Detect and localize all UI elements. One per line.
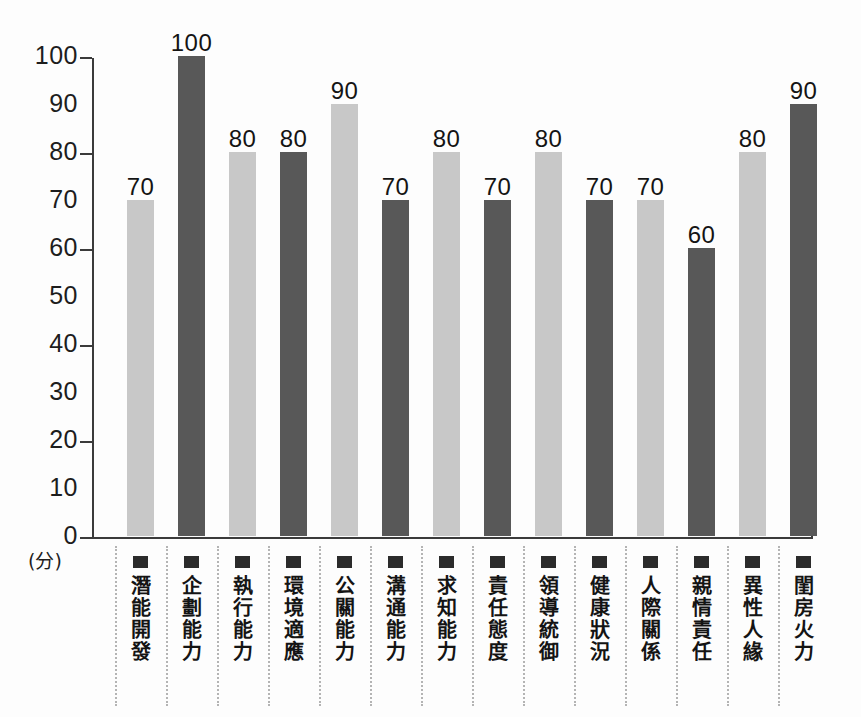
category-marker-square-icon: [745, 556, 760, 568]
bar-value-label: 80: [519, 125, 579, 153]
chart-page: 70100808090708070807070608090 0102030405…: [0, 0, 861, 717]
category-label-13: 異性人緣: [731, 540, 775, 663]
category-label-text: 人際關係: [640, 575, 662, 663]
category-label-text: 企劃能力: [181, 575, 203, 663]
y-axis-tick-mark: [80, 249, 92, 251]
y-axis-tick-mark: [80, 441, 92, 443]
category-separator: [778, 546, 780, 706]
category-axis-labels: 潛能開發企劃能力執行能力環境適應公關能力溝通能力求知能力責任態度領導統御健康狀況…: [92, 540, 813, 717]
category-separator: [676, 546, 678, 706]
category-marker-square-icon: [439, 556, 454, 568]
category-label-4: 環境適應: [272, 540, 316, 663]
category-label-text: 親情責任: [691, 575, 713, 663]
y-axis-unit-label: (分): [28, 546, 62, 573]
bar: [178, 56, 205, 536]
bar-value-label: 80: [264, 125, 324, 153]
y-axis-tick-label: 80: [18, 137, 78, 166]
y-axis-tick-label: 90: [18, 89, 78, 118]
category-marker-square-icon: [694, 556, 709, 568]
category-marker-square-icon: [643, 556, 658, 568]
category-marker-square-icon: [541, 556, 556, 568]
y-axis-tick-label: 70: [18, 185, 78, 214]
category-separator: [319, 546, 321, 706]
category-label-14: 閨房火力: [782, 540, 826, 663]
category-separator: [166, 546, 168, 706]
category-separator: [574, 546, 576, 706]
bar: [586, 200, 613, 536]
category-separator: [625, 546, 627, 706]
bar: [688, 248, 715, 536]
category-marker-square-icon: [796, 556, 811, 568]
y-axis-tick-label: 20: [18, 425, 78, 454]
category-label-3: 執行能力: [221, 540, 265, 663]
category-label-12: 親情責任: [680, 540, 724, 663]
x-axis-line: [92, 537, 813, 539]
category-separator: [268, 546, 270, 706]
category-marker-square-icon: [337, 556, 352, 568]
bar: [484, 200, 511, 536]
category-marker-square-icon: [184, 556, 199, 568]
bar-value-label: 60: [672, 221, 732, 249]
category-label-text: 環境適應: [283, 575, 305, 663]
bar: [535, 152, 562, 536]
y-axis-tick-mark: [80, 537, 92, 539]
category-label-7: 求知能力: [425, 540, 469, 663]
category-separator: [421, 546, 423, 706]
category-label-text: 求知能力: [436, 575, 458, 663]
category-label-10: 健康狀況: [578, 540, 622, 663]
bar-value-label: 70: [366, 173, 426, 201]
bar: [790, 104, 817, 536]
bar-value-label: 90: [774, 77, 834, 105]
bar: [331, 104, 358, 536]
category-label-text: 溝通能力: [385, 575, 407, 663]
category-separator: [472, 546, 474, 706]
y-axis-tick-label: 50: [18, 281, 78, 310]
y-axis-line: [92, 58, 94, 539]
bar: [229, 152, 256, 536]
bar: [127, 200, 154, 536]
category-label-text: 責任態度: [487, 575, 509, 663]
category-label-11: 人際關係: [629, 540, 673, 663]
category-marker-square-icon: [490, 556, 505, 568]
bar-value-label: 70: [468, 173, 528, 201]
category-label-text: 異性人緣: [742, 575, 764, 663]
plot-area: 70100808090708070807070608090: [92, 58, 813, 538]
bar-value-label: 80: [723, 125, 783, 153]
category-label-8: 責任態度: [476, 540, 520, 663]
category-label-9: 領導統御: [527, 540, 571, 663]
y-axis-tick-label: 40: [18, 329, 78, 358]
bar-value-label: 70: [621, 173, 681, 201]
category-label-1: 潛能開發: [119, 540, 163, 663]
bar: [382, 200, 409, 536]
category-label-text: 健康狀況: [589, 575, 611, 663]
y-axis-tick-mark: [80, 345, 92, 347]
category-label-6: 溝通能力: [374, 540, 418, 663]
bar-value-label: 80: [417, 125, 477, 153]
category-marker-square-icon: [286, 556, 301, 568]
category-label-text: 閨房火力: [793, 575, 815, 663]
category-marker-square-icon: [592, 556, 607, 568]
category-label-text: 領導統御: [538, 575, 560, 663]
y-axis-tick-label: 100: [18, 41, 78, 70]
y-axis-tick-label: 30: [18, 377, 78, 406]
bar-value-label: 70: [111, 173, 171, 201]
category-label-text: 公關能力: [334, 575, 356, 663]
y-axis-tick-label: 10: [18, 473, 78, 502]
bar: [739, 152, 766, 536]
category-separator: [727, 546, 729, 706]
category-label-text: 潛能開發: [130, 575, 152, 663]
category-marker-square-icon: [235, 556, 250, 568]
category-separator: [370, 546, 372, 706]
y-axis-tick-label: 60: [18, 233, 78, 262]
category-marker-square-icon: [133, 556, 148, 568]
bar-value-label: 90: [315, 77, 375, 105]
category-separator: [217, 546, 219, 706]
y-axis-tick-mark: [80, 57, 92, 59]
bar: [280, 152, 307, 536]
category-marker-square-icon: [388, 556, 403, 568]
bar-value-label: 100: [162, 29, 222, 57]
category-label-5: 公關能力: [323, 540, 367, 663]
y-axis-tick-mark: [80, 153, 92, 155]
category-label-text: 執行能力: [232, 575, 254, 663]
category-separator: [523, 546, 525, 706]
